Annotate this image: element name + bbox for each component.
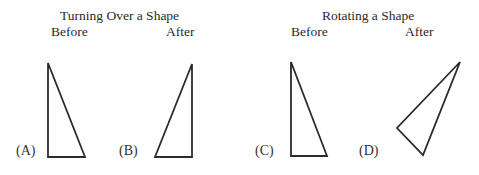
triangles-canvas [0, 0, 479, 175]
triangle-d-after-rotate [397, 62, 460, 155]
triangle-a-before-flip [48, 63, 85, 157]
transformations-figure: Turning Over a Shape Before After Rotati… [0, 0, 479, 175]
triangle-b-after-flip [155, 64, 192, 157]
triangle-c-before-rotate [291, 62, 327, 156]
